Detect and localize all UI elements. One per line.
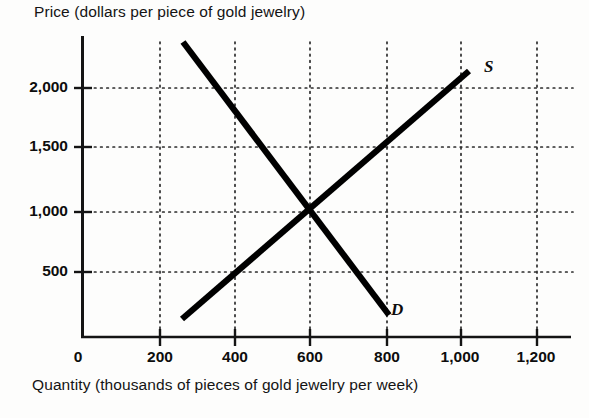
horizontal-gridlines — [82, 88, 573, 272]
demand-curve — [183, 42, 389, 315]
chart-figure: Price (dollars per piece of gold jewelry… — [0, 0, 589, 418]
plot-area — [0, 0, 589, 418]
supply-curve — [182, 71, 469, 319]
